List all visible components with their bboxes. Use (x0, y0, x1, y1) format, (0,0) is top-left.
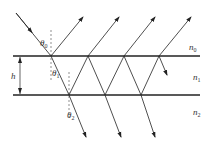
continuing-ray (159, 56, 167, 75)
thickness-label: h (11, 71, 16, 81)
reflected-rays (51, 17, 191, 56)
transmitted-rays (69, 95, 155, 137)
medium-n2-label: n2 (193, 107, 201, 118)
angle-theta2-label: θ2 (67, 110, 74, 121)
internal-rays (51, 56, 159, 95)
medium-n1-label: n1 (193, 72, 201, 83)
incident-ray (16, 13, 51, 56)
diagram-svg: h θ0 θ1 θ2 n0 n1 n2 (0, 0, 210, 149)
angle-theta1-label: θ1 (52, 68, 59, 79)
angle-theta0-label: θ0 (40, 38, 47, 49)
medium-n0-label: n0 (189, 42, 197, 53)
thin-film-diagram: h θ0 θ1 θ2 n0 n1 n2 (0, 0, 210, 149)
thickness-dimension (18, 57, 22, 94)
